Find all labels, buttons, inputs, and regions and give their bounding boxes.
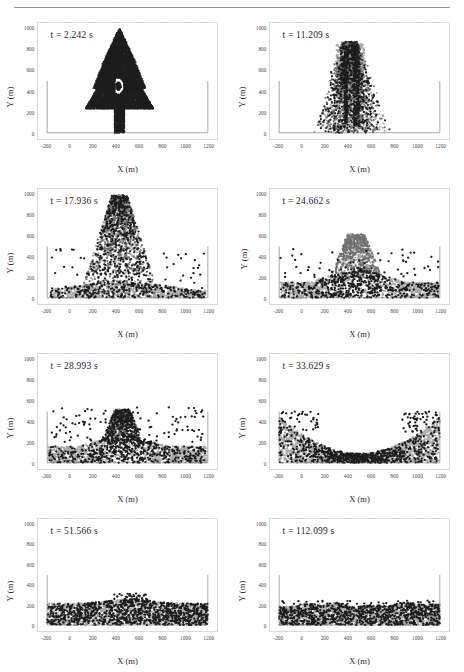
x-tick-label: 800: [390, 308, 398, 314]
y-tick-label: 400: [26, 419, 34, 425]
y-tick-label: 800: [26, 377, 34, 383]
x-tick-label: 0: [300, 308, 303, 314]
y-tick-label: 1000: [256, 25, 267, 31]
particle-group: [85, 28, 154, 133]
x-tick-label: 600: [135, 473, 143, 479]
x-tick-label: 1200: [435, 143, 446, 149]
x-tick-label: 200: [89, 635, 97, 641]
x-tick-label: 1000: [412, 143, 423, 149]
y-tick-label: 1000: [24, 25, 35, 31]
y-tick-label: 600: [26, 233, 34, 239]
y-tick-label: 0: [32, 623, 35, 629]
x-tick-label: 800: [158, 143, 166, 149]
y-tick-label: 1000: [256, 521, 267, 527]
time-annotation: t = 2.242 s: [51, 30, 93, 40]
x-tick-label: 1200: [203, 635, 214, 641]
x-tick-label: 400: [112, 308, 120, 314]
x-tick-label: 1200: [203, 308, 214, 314]
x-tick-label: 1200: [435, 308, 446, 314]
x-tick-label: 1000: [180, 473, 191, 479]
x-tick-label: 600: [135, 143, 143, 149]
y-tick-label: 0: [264, 623, 267, 629]
x-tick-label: 1000: [180, 635, 191, 641]
x-tick-label: 200: [89, 473, 97, 479]
x-tick-label: 0: [68, 308, 71, 314]
x-tick-label: 1000: [412, 473, 423, 479]
y-tick-label: 0: [264, 461, 267, 467]
y-tick-label: 600: [258, 562, 266, 568]
scatter-plot: [270, 519, 449, 631]
x-tick-label: 800: [158, 473, 166, 479]
y-tick-label: 0: [32, 296, 35, 302]
y-tick-label: 600: [258, 398, 266, 404]
y-axis-label: Y (m): [239, 249, 249, 270]
x-tick-label: 1000: [180, 143, 191, 149]
scatter-plot: [38, 189, 217, 304]
x-tick-label: 800: [390, 635, 398, 641]
plot-panel-8: Y (m)t = 112.099 s02004006008001000-2000…: [232, 510, 464, 672]
time-annotation: t = 28.993 s: [51, 361, 98, 371]
x-tick-label: 0: [68, 143, 71, 149]
x-axis-label: X (m): [269, 656, 450, 666]
x-tick-label: 600: [367, 635, 375, 641]
x-axis-label: X (m): [37, 329, 218, 339]
y-tick-label: 200: [258, 440, 266, 446]
scatter-plot: [38, 519, 217, 631]
x-axis-label: X (m): [37, 164, 218, 174]
x-tick-label: 200: [321, 143, 329, 149]
y-tick-label: 400: [26, 582, 34, 588]
scatter-plot: [38, 354, 217, 469]
y-tick-label: 600: [26, 67, 34, 73]
y-tick-label: 800: [258, 541, 266, 547]
x-tick-label: -200: [273, 473, 283, 479]
y-tick-label: 600: [258, 233, 266, 239]
x-tick-label: 400: [112, 143, 120, 149]
y-tick-label: 600: [258, 67, 266, 73]
x-tick-label: 0: [300, 143, 303, 149]
x-tick-label: 0: [300, 635, 303, 641]
x-tick-label: 1200: [203, 143, 214, 149]
y-tick-label: 800: [26, 46, 34, 52]
plot-panel-3: Y (m)t = 17.936 s02004006008001000-20002…: [0, 180, 232, 345]
y-tick-label: 200: [26, 603, 34, 609]
x-tick-label: -200: [273, 308, 283, 314]
y-tick-label: 200: [26, 275, 34, 281]
x-tick-label: 800: [390, 473, 398, 479]
x-tick-label: -200: [41, 308, 51, 314]
plot-frame: t = 112.099 s: [269, 518, 450, 632]
y-tick-label: 400: [258, 419, 266, 425]
y-tick-label: 600: [26, 398, 34, 404]
y-tick-label: 1000: [256, 191, 267, 197]
y-axis-label: Y (m): [5, 417, 15, 438]
plot-frame: t = 28.993 s: [37, 353, 218, 470]
x-tick-label: 200: [89, 143, 97, 149]
y-tick-label: 0: [264, 131, 267, 137]
y-tick-label: 800: [258, 46, 266, 52]
time-annotation: t = 11.209 s: [283, 30, 330, 40]
y-tick-label: 200: [26, 110, 34, 116]
y-axis-label: Y (m): [237, 417, 247, 438]
y-axis-label: Y (m): [237, 86, 247, 107]
x-tick-label: 800: [158, 308, 166, 314]
x-axis-label: X (m): [269, 494, 450, 504]
scatter-plot: [270, 189, 449, 304]
y-axis-label: Y (m): [5, 580, 15, 601]
plot-frame: t = 33.629 s: [269, 353, 450, 470]
y-axis-label: Y (m): [5, 86, 15, 107]
x-axis-label: X (m): [37, 656, 218, 666]
y-tick-label: 400: [258, 582, 266, 588]
y-tick-label: 200: [258, 110, 266, 116]
time-annotation: t = 24.662 s: [283, 196, 330, 206]
y-tick-label: 1000: [24, 356, 35, 362]
x-tick-label: 200: [321, 473, 329, 479]
plot-panel-2: Y (m)t = 11.209 s02004006008001000-20002…: [232, 14, 464, 180]
y-tick-label: 200: [26, 440, 34, 446]
scatter-plot: [38, 23, 217, 139]
plot-frame: t = 2.242 s: [37, 22, 218, 140]
y-tick-label: 800: [258, 377, 266, 383]
y-tick-label: 1000: [24, 191, 35, 197]
x-tick-label: 1200: [435, 635, 446, 641]
x-tick-label: 0: [68, 473, 71, 479]
y-tick-label: 400: [26, 89, 34, 95]
x-axis-label: X (m): [269, 164, 450, 174]
